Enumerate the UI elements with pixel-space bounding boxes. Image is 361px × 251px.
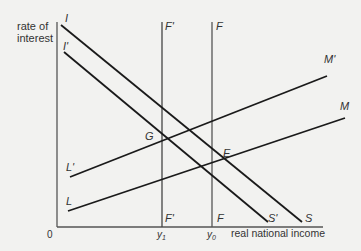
tick-y0: y0 <box>206 229 216 241</box>
point-G-label: G <box>145 130 154 142</box>
label-I-prime: I' <box>63 40 69 52</box>
label-F-prime-bottom: F' <box>165 212 175 224</box>
label-L: L <box>66 195 72 207</box>
label-L-prime: L' <box>66 161 75 173</box>
is-prime-curve <box>64 52 268 222</box>
label-F-bottom: F <box>217 212 225 224</box>
y-axis-label-line1: rate of <box>17 20 49 32</box>
diagram-canvas: rate of interest 0 real national income … <box>0 0 361 251</box>
label-F-top: F <box>216 20 224 32</box>
x-axis-label: real national income <box>231 227 325 239</box>
origin-label: 0 <box>47 229 53 240</box>
lm-prime-curve <box>70 76 327 177</box>
is-curve <box>61 25 302 222</box>
label-S: S <box>305 212 313 224</box>
label-M-prime: M' <box>324 53 336 65</box>
label-S-prime: S' <box>268 212 278 224</box>
point-E-label: E <box>223 147 231 159</box>
y-axis-label-line2: interest <box>17 32 53 44</box>
tick-y1: y1 <box>156 229 166 241</box>
label-M: M <box>340 100 350 112</box>
lm-curve <box>68 118 345 211</box>
label-I: I <box>65 12 68 24</box>
label-F-prime-top: F' <box>165 20 175 32</box>
